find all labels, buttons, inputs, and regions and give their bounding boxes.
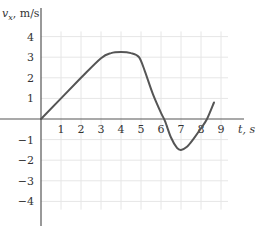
x-tick-label: 7 — [178, 123, 185, 136]
grid-lines — [41, 31, 228, 209]
x-tick-label: 1 — [58, 123, 65, 136]
x-tick-label: 6 — [158, 123, 165, 136]
y-tick-label: 3 — [27, 51, 34, 64]
x-tick-label: 3 — [98, 123, 105, 136]
x-axis-label: t, s — [238, 123, 255, 136]
velocity-time-chart: 123456789 4321−1−2−3−4 vx, m/s t, s — [0, 0, 266, 238]
x-tick-label: 2 — [78, 123, 85, 136]
velocity-curve — [41, 52, 214, 150]
y-tick-label: 2 — [27, 72, 34, 85]
y-tick-label: 4 — [27, 31, 34, 44]
y-tick-label: −4 — [18, 195, 34, 208]
y-tick-label: −1 — [18, 134, 34, 147]
y-axis-label: vx, m/s — [2, 7, 40, 22]
y-tick-label: 1 — [27, 92, 34, 105]
x-tick-label: 4 — [118, 123, 125, 136]
x-tick-label: 5 — [138, 123, 145, 136]
y-tick-label: −3 — [18, 175, 34, 188]
x-tick-label: 9 — [218, 123, 225, 136]
y-tick-label: −2 — [18, 154, 34, 167]
